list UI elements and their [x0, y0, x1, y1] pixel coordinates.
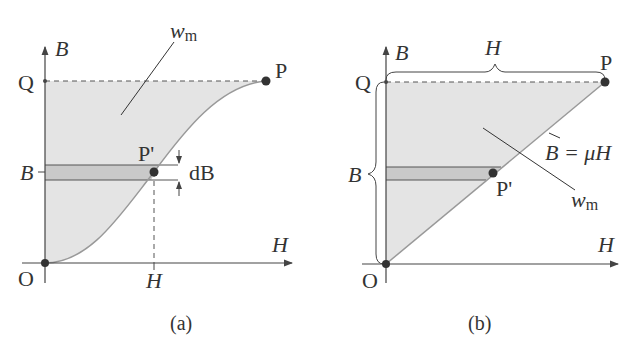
- p-label: P: [275, 58, 287, 83]
- h-axis-label: H: [597, 232, 615, 257]
- point-o: [41, 259, 49, 267]
- origin-label: O: [18, 266, 34, 291]
- panel-b: B H Q P B B = μH P' wm H O (b): [348, 35, 618, 335]
- h-brace: [386, 64, 605, 80]
- wm-label: wm: [571, 187, 599, 213]
- db-label: dB: [189, 160, 215, 185]
- h-axis-label: H: [271, 232, 289, 257]
- point-o: [382, 260, 390, 268]
- caption-a: (a): [170, 312, 192, 335]
- magnetic-energy-diagram: B Q P P' B dB H O H wm (a) B: [0, 0, 634, 348]
- b-axis-label: B: [395, 40, 408, 65]
- p-label: P: [600, 50, 612, 75]
- q-label: Q: [355, 70, 371, 95]
- origin-label: O: [362, 268, 378, 293]
- b-brace: [368, 82, 384, 264]
- caption-b: (b): [468, 312, 491, 335]
- equation-label: B = μH: [545, 140, 612, 165]
- brace-h-label: H: [484, 35, 502, 60]
- b-tick-label: B: [20, 160, 33, 185]
- db-strip: [45, 165, 159, 180]
- q-label: Q: [18, 70, 34, 95]
- wm-label: wm: [170, 18, 198, 44]
- db-strip: [386, 167, 501, 180]
- panel-a: B Q P P' B dB H O H wm (a): [18, 18, 292, 335]
- point-p: [262, 77, 271, 86]
- b-axis-label: B: [55, 36, 68, 61]
- p-prime-label: P': [138, 141, 154, 166]
- equation-leader-line: [549, 133, 560, 138]
- point-p: [601, 78, 610, 87]
- p-prime-label: P': [496, 176, 512, 201]
- point-p-prime: [150, 168, 159, 177]
- h-tick-label: H: [145, 268, 163, 293]
- brace-b-label: B: [348, 162, 361, 187]
